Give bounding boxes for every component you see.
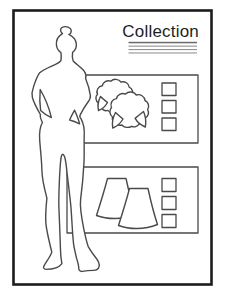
- fashion-model-silhouette: [32, 27, 99, 272]
- checkbox[interactable]: [162, 101, 176, 114]
- illustration-canvas: Collection: [0, 0, 225, 300]
- title-underline: [129, 42, 198, 44]
- checkbox[interactable]: [162, 215, 176, 228]
- page-title: Collection: [122, 22, 199, 41]
- checkbox[interactable]: [162, 83, 176, 96]
- checkbox[interactable]: [162, 118, 176, 131]
- panel-skirts: [67, 167, 198, 233]
- title-underlines: [129, 42, 198, 54]
- checkbox[interactable]: [162, 179, 176, 192]
- checkbox[interactable]: [162, 197, 176, 210]
- title-underline: [129, 49, 198, 50]
- title-underline: [129, 52, 198, 53]
- title-underline: [129, 46, 198, 47]
